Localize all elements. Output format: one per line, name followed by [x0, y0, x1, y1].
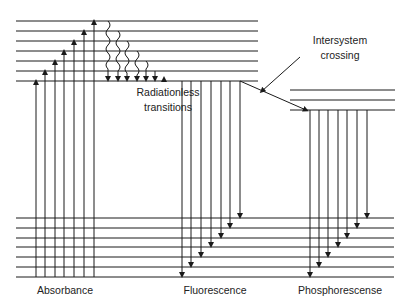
intersystem-crossing-label: Intersystem crossing — [300, 33, 380, 63]
isc-pointer-arrow — [262, 57, 300, 91]
phosphorescence-label: Phosphorescense — [290, 283, 390, 298]
radiationless-arrow — [135, 51, 139, 79]
fluorescence-label: Fluorescence — [170, 283, 260, 298]
radiationless-arrow — [146, 61, 148, 79]
intersystem-crossing-arrow — [240, 81, 306, 110]
radiationless-arrow — [106, 21, 110, 79]
radiationless-arrow — [116, 31, 120, 79]
radiationless-arrow — [125, 41, 129, 79]
absorbance-label: Absorbance — [20, 283, 110, 298]
radiationless-label: Radiationless transitions — [108, 85, 228, 115]
